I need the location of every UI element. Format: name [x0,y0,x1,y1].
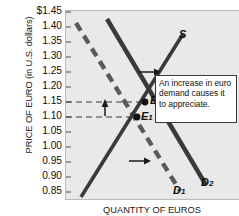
y-tick-label: 1.15 [42,96,62,106]
equilibrium-label-e1: E1 [141,110,153,122]
y-tick-label: $1.45 [37,6,63,16]
y-tick-label: 0.85 [42,186,62,196]
y-tick-label: 1.20 [42,81,62,91]
y-tick-label: 1.10 [42,111,62,121]
y-tick-label: 1.25 [42,66,62,76]
y-tick-label: 1.05 [42,126,62,136]
y-tick-label: 0.90 [42,171,62,181]
curve-label-d1: D1 [173,184,185,196]
exchange-rate-supply-demand-chart: PRICE OF EURO (in U.S. dollars) $1.45 1.… [0,0,239,216]
demand-shift-arrow-lower [129,158,151,165]
y-tick-label: 1.35 [42,36,62,46]
y-axis-tick-labels: $1.45 1.40 1.35 1.30 1.25 1.20 1.15 1.10… [16,0,62,216]
y-tick-label: 1.30 [42,51,62,61]
x-axis-title: QUANTITY OF EUROS [65,205,239,215]
y-tick-label: 0.95 [42,156,62,166]
y-tick-label: 1.00 [42,141,62,151]
y-tick-label: 1.40 [42,21,62,31]
callout-box: An increase in euro demand causes it to … [155,75,237,123]
equilibrium-point-e1 [134,114,141,121]
equilibrium-point-e2 [142,99,149,106]
curve-label-d2: D2 [201,176,213,188]
curve-label-s: S [179,28,186,40]
